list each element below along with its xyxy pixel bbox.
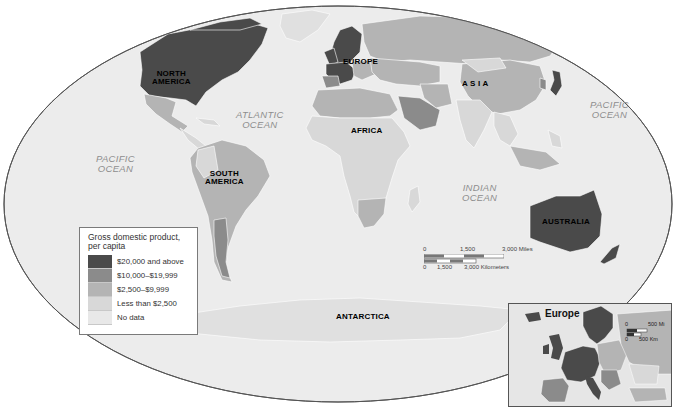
legend-swatch (88, 283, 112, 297)
legend-swatch (88, 297, 112, 311)
scale-miles-3000: 3,000 Miles (502, 246, 533, 252)
legend: Gross domestic product, per capita $20,0… (79, 227, 198, 335)
legend-item: $10,000–$19,999 (88, 269, 197, 283)
scale-km-0: 0 (423, 264, 426, 270)
legend-title: Gross domestic product, per capita (88, 233, 197, 251)
inset-scale-zero-km: 0 (625, 336, 628, 342)
legend-item: $20,000 and above (88, 255, 197, 269)
inset-scale-km: 500 Km (639, 336, 658, 342)
label-africa: AFRICA (351, 127, 382, 135)
inset-scale-zero-miles: 0 (625, 321, 628, 327)
label-indian-ocean: INDIAN OCEAN (462, 183, 497, 203)
legend-label: No data (117, 313, 144, 322)
label-europe: EUROPE (343, 58, 378, 66)
label-south-america: SOUTH AMERICA (205, 170, 244, 187)
label-atlantic-ocean: ATLANTIC OCEAN (236, 110, 284, 130)
inset-scale-miles: 500 Mi (648, 321, 665, 327)
legend-swatch (88, 311, 112, 325)
scale-km-3000: 3,000 Kilometers (464, 264, 509, 270)
label-asia: A S I A (462, 80, 489, 88)
legend-swatch (88, 269, 112, 283)
legend-swatch (88, 255, 112, 269)
legend-label: $2,500–$9,999 (117, 285, 169, 294)
legend-item: No data (88, 311, 197, 325)
scale-miles-1500: 1,500 (460, 246, 475, 252)
legend-label: $20,000 and above (117, 257, 184, 266)
legend-item: $2,500–$9,999 (88, 283, 197, 297)
scale-km-1500: 1,500 (437, 264, 452, 270)
europe-inset-graphic (509, 304, 672, 407)
scale-bar: 0 1,500 3,000 Miles 0 1,500 3,000 Kilome… (420, 246, 530, 276)
label-antarctica: ANTARCTICA (336, 313, 390, 321)
label-australia: AUSTRALIA (542, 218, 590, 226)
scale-miles-0: 0 (423, 246, 426, 252)
legend-item: Less than $2,500 (88, 297, 197, 311)
legend-label: $10,000–$19,999 (117, 271, 178, 280)
legend-label: Less than $2,500 (117, 299, 177, 308)
asia-landmass (362, 16, 560, 64)
scale-bar-graphic (424, 254, 504, 264)
label-north-america: NORTH AMERICA (152, 70, 191, 87)
label-pacific-ocean-west: PACIFIC OCEAN (96, 154, 135, 174)
label-pacific-ocean-east: PACIFIC OCEAN (590, 100, 629, 120)
europe-inset-map: Europe 0 500 Mi 0 500 Km (508, 303, 672, 407)
inset-title: Europe (545, 308, 579, 319)
